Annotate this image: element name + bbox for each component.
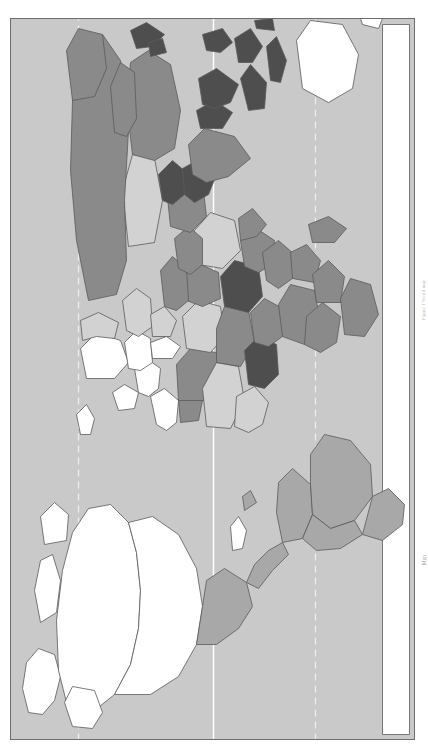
- map-frame: .c{stroke:#5a5a5a;stroke-width:.8;stroke…: [10, 18, 415, 740]
- figure-caption: Figure 1 World map: [421, 280, 426, 320]
- map-rotation-stage: .c{stroke:#5a5a5a;stroke-width:.8;stroke…: [10, 18, 415, 740]
- world-choropleth-svg[interactable]: .c{stroke:#5a5a5a;stroke-width:.8;stroke…: [10, 18, 415, 740]
- corner-mark: Map: [421, 555, 427, 565]
- caption-margin: Figure 1 World map Map: [414, 0, 427, 750]
- figure-page: .c{stroke:#5a5a5a;stroke-width:.8;stroke…: [0, 0, 428, 750]
- region-antarctica[interactable]: [382, 24, 409, 734]
